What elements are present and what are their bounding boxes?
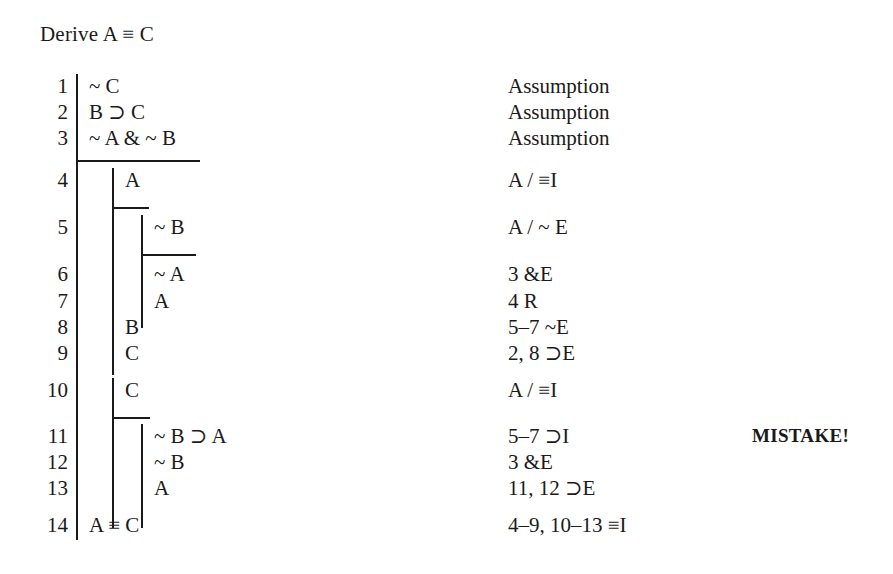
line-number: 4 [32, 168, 68, 193]
mistake-annotation: MISTAKE! [752, 425, 849, 447]
scope-bar-level-3-subproof-inner [141, 424, 143, 528]
proof-formula: C [125, 341, 139, 366]
proof-canvas: Derive A ≡ C 1 2 3 4 5 6 7 8 9 10 11 12 … [0, 0, 893, 574]
proof-formula: B [125, 315, 139, 340]
proof-formula: A [154, 476, 169, 501]
proof-formula: ~ B ⊃ A [154, 424, 227, 449]
scope-bar-level-2-subproof-a [112, 168, 114, 375]
assumption-rule-line-5 [141, 254, 196, 256]
assumption-rule-premises [76, 160, 200, 162]
proof-formula: A [125, 168, 140, 193]
assumption-rule-line-10 [112, 417, 150, 419]
line-number: 14 [32, 513, 68, 538]
line-number: 5 [32, 215, 68, 240]
proof-formula: ~ B [154, 450, 185, 475]
proof-justification: 3 &E [508, 262, 553, 287]
proof-justification: 5–7 ⊃I [508, 424, 569, 449]
proof-formula: B ⊃ C [89, 100, 145, 125]
line-number: 3 [32, 126, 68, 151]
proof-justification: 3 &E [508, 450, 553, 475]
proof-formula: A [154, 289, 169, 314]
line-number: 6 [32, 262, 68, 287]
proof-justification: 4–9, 10–13 ≡I [508, 513, 627, 538]
assumption-rule-line-4 [112, 207, 149, 209]
proof-formula: ~ C [89, 74, 120, 99]
line-number: 9 [32, 341, 68, 366]
proof-formula: C [125, 378, 139, 403]
derive-goal-statement: Derive A ≡ C [40, 22, 154, 47]
proof-justification: Assumption [508, 126, 610, 151]
proof-justification: A / ~ E [508, 215, 568, 240]
line-number: 10 [32, 378, 68, 403]
proof-justification: Assumption [508, 74, 610, 99]
line-number: 7 [32, 289, 68, 314]
line-number: 2 [32, 100, 68, 125]
proof-formula: ~ B [154, 215, 185, 240]
proof-justification: 11, 12 ⊃E [508, 476, 595, 501]
line-number: 13 [32, 476, 68, 501]
proof-justification: Assumption [508, 100, 610, 125]
line-number: 8 [32, 315, 68, 340]
scope-bar-level-1 [76, 74, 78, 540]
proof-formula: A ≡ C [89, 513, 139, 538]
proof-justification: 2, 8 ⊃E [508, 341, 575, 366]
line-number: 1 [32, 74, 68, 99]
scope-bar-level-3-subproof-not-e [141, 215, 143, 328]
line-number: 12 [32, 450, 68, 475]
proof-formula: ~ A [154, 262, 185, 287]
proof-formula: ~ A & ~ B [89, 126, 176, 151]
proof-justification: 5–7 ~E [508, 315, 569, 340]
proof-justification: 4 R [508, 289, 538, 314]
line-number: 11 [32, 424, 68, 449]
proof-justification: A / ≡I [508, 378, 557, 403]
scope-bar-level-2-subproof-c [112, 378, 114, 528]
proof-justification: A / ≡I [508, 168, 557, 193]
